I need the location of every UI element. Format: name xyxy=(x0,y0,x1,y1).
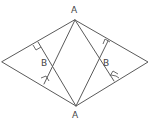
line-top-to-right-lower-foot xyxy=(75,20,114,81)
outer-rhombus xyxy=(2,20,148,106)
rhombus-diagram: A A B B xyxy=(0,0,159,121)
line-bottom-to-left-upper-foot xyxy=(38,42,76,106)
label-left-b: B xyxy=(41,58,47,68)
line-top-to-left-lower-foot xyxy=(44,20,75,84)
label-bottom-a: A xyxy=(72,110,79,120)
label-right-b: B xyxy=(103,58,109,68)
label-top-a: A xyxy=(71,5,78,15)
